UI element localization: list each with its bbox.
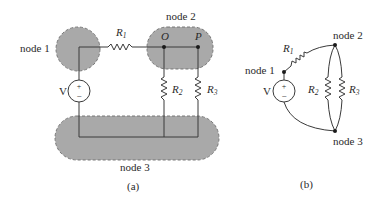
point-p-dot [196, 45, 200, 49]
point-o-dot [162, 45, 166, 49]
resistor-b-r3 [339, 77, 345, 100]
resistor-b-r2 [325, 77, 331, 100]
r3-b-label: R3 [348, 83, 360, 97]
r1-b-label: R1 [282, 42, 293, 56]
source-minus: − [76, 91, 81, 101]
node3-region [55, 116, 219, 160]
resistor-r1 [108, 44, 135, 50]
node2-label: node 2 [166, 10, 196, 22]
resistor-r3 [195, 77, 201, 100]
node1-region [56, 27, 100, 71]
point-p-label: P [194, 30, 202, 42]
figure-a: + − node 1 node 2 node 3 O P V R1 R2 R3 … [20, 10, 219, 193]
node2-b-label: node 2 [333, 29, 363, 41]
figure-b: + − node 1 node 2 node 3 V R1 R2 R3 (b) [245, 29, 363, 191]
source-b-plus: + [282, 82, 287, 91]
node1-b-label: node 1 [245, 64, 275, 76]
source-label: V [59, 85, 67, 97]
circuit-figure: + − node 1 node 2 node 3 O P V R1 R2 R3 … [0, 0, 380, 204]
r2-label: R2 [171, 83, 183, 97]
r2-b-label: R2 [307, 83, 319, 97]
caption-a: (a) [127, 180, 140, 193]
wire-b-r2-top [328, 45, 335, 77]
source-plus: + [77, 82, 82, 91]
wire-b-source-node3 [284, 102, 335, 131]
source-b-label: V [263, 85, 271, 97]
node2-region [147, 27, 213, 69]
r3-label: R3 [206, 83, 218, 97]
wire-b-r3-bottom [335, 100, 342, 131]
node2-b-dot [333, 43, 337, 47]
resistor-r2 [161, 77, 167, 100]
wire-b-r3-top [335, 45, 342, 77]
node1-label: node 1 [20, 42, 50, 54]
caption-b: (b) [300, 178, 313, 191]
wire-b-r2-bottom [328, 100, 335, 131]
wire-b-r1-node2 [307, 45, 335, 53]
node3-b-dot [333, 129, 337, 133]
source-b-minus: − [281, 91, 286, 101]
node1-b-dot [282, 70, 286, 74]
node3-b-label: node 3 [333, 135, 363, 147]
point-o-label: O [161, 30, 169, 42]
r1-label: R1 [115, 26, 126, 40]
node3-label: node 3 [120, 161, 150, 173]
